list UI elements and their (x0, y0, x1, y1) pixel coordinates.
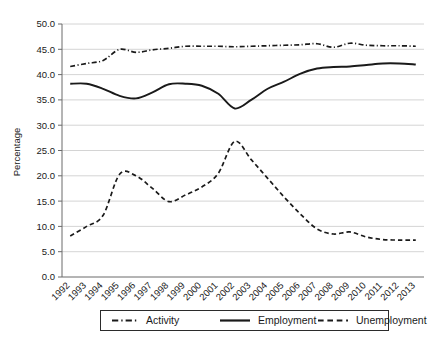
y-axis-title: Percentage (11, 128, 22, 177)
series-line-activity (70, 43, 416, 66)
y-tick-label: 50.0 (37, 18, 56, 29)
y-tick-label: 30.0 (37, 120, 56, 131)
gridlines (62, 24, 424, 252)
y-tick-label: 20.0 (37, 170, 56, 181)
y-tick-label: 40.0 (37, 69, 56, 80)
y-tick-label: 10.0 (37, 221, 56, 232)
y-axis-tick-labels: 0.05.010.015.020.025.030.035.040.045.050… (37, 18, 56, 282)
legend-label-employment: Employment (258, 314, 316, 326)
legend-label-unemployment: Unemployment (356, 314, 427, 326)
series-line-employment (70, 63, 416, 108)
y-tick-label: 45.0 (37, 44, 56, 55)
y-tick-label: 15.0 (37, 196, 56, 207)
y-tick-label: 35.0 (37, 94, 56, 105)
x-tick-label: 2013 (394, 280, 417, 303)
series-line-unemployment (70, 141, 416, 240)
chart-legend: ActivityEmploymentUnemployment (101, 311, 427, 331)
y-tick-label: 0.0 (42, 271, 55, 282)
data-series-group (70, 43, 416, 240)
y-axis-ticks (58, 24, 62, 277)
y-tick-label: 25.0 (37, 145, 56, 156)
line-chart: 0.05.010.015.020.025.030.035.040.045.050… (0, 0, 445, 348)
y-tick-label: 5.0 (42, 246, 55, 257)
chart-figure: 0.05.010.015.020.025.030.035.040.045.050… (0, 0, 445, 348)
legend-label-activity: Activity (146, 314, 180, 326)
legend-items: ActivityEmploymentUnemployment (112, 314, 427, 326)
x-axis-tick-labels: 1992199319941995199619971998199920002001… (49, 280, 417, 303)
